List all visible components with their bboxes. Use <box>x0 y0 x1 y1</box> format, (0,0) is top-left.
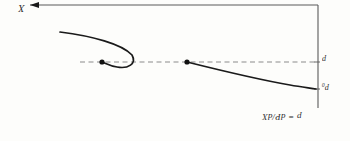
fold-point-marker <box>99 59 104 64</box>
descending-branch-curve <box>187 62 316 89</box>
equation-denominator: dX <box>262 112 272 122</box>
axis-arrowhead-icon <box>30 2 39 8</box>
branch-point-marker <box>184 59 189 64</box>
equation-equals: = <box>288 112 294 122</box>
tick-lower-subscript: 0 <box>322 82 325 88</box>
equation-numerator: dP <box>275 112 285 122</box>
tick-label-upper: p <box>322 55 326 63</box>
vertical-axis-label: X <box>18 3 24 13</box>
equation-caption: p = dP/dX <box>262 112 301 121</box>
fold-branch-curve <box>60 32 133 67</box>
horizontal-axis-group <box>30 2 318 8</box>
equation-lhs: p <box>297 112 302 122</box>
tick-lower-base: p <box>325 84 329 93</box>
tick-label-lower: p0 <box>322 82 329 92</box>
bifurcation-diagram-figure: X p p0 p = dP/dX <box>0 0 350 141</box>
